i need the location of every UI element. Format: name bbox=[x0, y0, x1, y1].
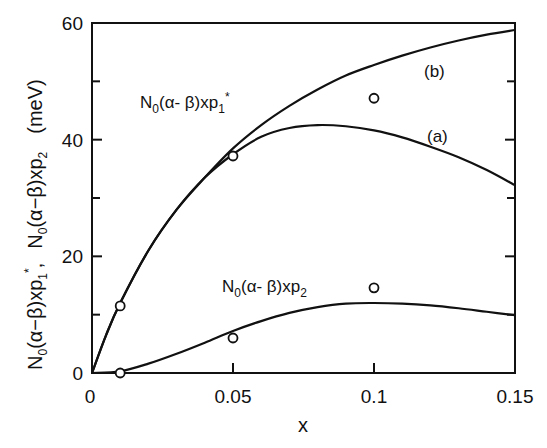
curve-line bbox=[92, 303, 515, 373]
y-tick-label: 40 bbox=[62, 130, 83, 151]
x-tick-label: 0.15 bbox=[497, 386, 534, 407]
svg-text:N0(α−β)xp1*,N0(α−β)xp2(meV): N0(α−β)xp1*,N0(α−β)xp2(meV) bbox=[22, 79, 50, 370]
annotation-curve-a: (a) bbox=[427, 127, 448, 146]
data-point-circle bbox=[116, 301, 125, 310]
data-point-circle bbox=[116, 369, 125, 378]
annotation-p1: N0(α- β)xp1* bbox=[140, 90, 230, 116]
x-axis-label: x bbox=[298, 414, 308, 436]
curve-line bbox=[92, 125, 515, 373]
x-tick-label: 0.05 bbox=[215, 386, 252, 407]
y-tick-label: 60 bbox=[62, 13, 83, 34]
data-point-circle bbox=[370, 94, 379, 103]
data-point-circle bbox=[229, 334, 238, 343]
curves bbox=[92, 30, 515, 373]
tick-labels: 00.050.10.150204060 bbox=[62, 13, 534, 407]
y-tick-label: 20 bbox=[62, 246, 83, 267]
chart-canvas: 00.050.10.150204060 x N0(α−β)xp1*,N0(α−β… bbox=[0, 0, 547, 448]
annotation-curve-b: (b) bbox=[424, 62, 445, 81]
data-point-circle bbox=[370, 283, 379, 292]
curve-line bbox=[92, 30, 515, 373]
y-tick-label: 0 bbox=[72, 363, 83, 384]
x-tick-label: 0.1 bbox=[361, 386, 387, 407]
plot-frame bbox=[92, 23, 515, 373]
data-point-circle bbox=[229, 152, 238, 161]
y-axis-label: N0(α−β)xp1*,N0(α−β)xp2(meV) bbox=[22, 79, 50, 370]
annotation-p2: N0(α- β)xp2 bbox=[222, 277, 307, 300]
x-tick-label: 0 bbox=[85, 386, 96, 407]
